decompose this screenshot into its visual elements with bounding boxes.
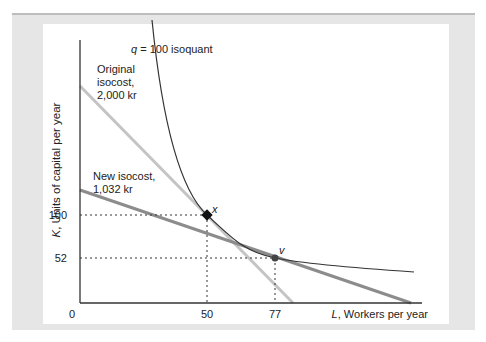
original-isocost-label-1: Original <box>97 63 135 75</box>
isoquant-curve <box>152 20 414 272</box>
new-isocost-line <box>80 190 411 303</box>
x-tick-77: 77 <box>269 308 281 320</box>
x-axis-label: L, Workers per year <box>332 308 429 320</box>
point-v-label: v <box>279 244 286 256</box>
x-tick-50: 50 <box>201 308 213 320</box>
y-axis-label: K, Units of capital per year <box>50 103 62 238</box>
point-v-marker <box>272 255 279 262</box>
new-isocost-label-1: New isocost, <box>93 170 155 182</box>
original-isocost-label-3: 2,000 kr <box>97 89 137 101</box>
isoquant-label: q = 100 isoquant <box>131 43 213 55</box>
x-tick-0: 0 <box>69 308 75 320</box>
chart-svg: x v q = 100 isoquant Original isocost, 2… <box>0 0 486 342</box>
y-tick-52: 52 <box>55 252 67 264</box>
new-isocost-label-2: 1,032 kr <box>93 183 133 195</box>
original-isocost-label-2: isocost, <box>97 76 134 88</box>
point-x-label: x <box>211 203 218 215</box>
